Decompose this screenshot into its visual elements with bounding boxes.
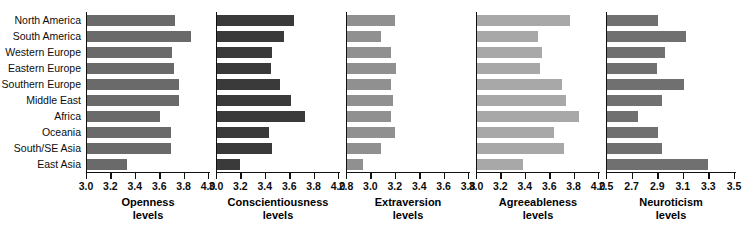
bar-conscientiousness-southern-europe [217, 79, 280, 90]
bar-row [347, 140, 470, 156]
bar-row [347, 60, 470, 76]
bar-conscientiousness-eastern-europe [217, 63, 271, 74]
panel-title-main: Conscientiousness [228, 196, 329, 208]
bar-row [87, 140, 210, 156]
axis-tick-label: 3.2 [387, 180, 402, 192]
panel-agreeableness: 3.03.23.43.63.84.0Agreeablenesslevels [476, 0, 600, 227]
bar-agreeableness-western-europe [477, 47, 542, 58]
axis-tick [500, 173, 501, 179]
axis-tick-label: 3.8 [566, 180, 581, 192]
bar-openness-east-asia [87, 159, 127, 170]
bar-row [87, 92, 210, 108]
panel-title-neuroticism: Neuroticismlevels [606, 196, 736, 222]
panel-title-main: Neuroticism [639, 196, 703, 208]
bar-agreeableness-southern-europe [477, 79, 562, 90]
bar-row [607, 156, 736, 172]
bar-neuroticism-east-asia [607, 159, 708, 170]
bar-row [87, 124, 210, 140]
category-label: South America [0, 28, 86, 44]
bar-row [607, 108, 736, 124]
x-axis-openness: 3.03.23.43.63.84.0 [86, 172, 210, 180]
plot-area-neuroticism [606, 12, 736, 172]
bar-row [607, 44, 736, 60]
axis-tick-label: 3.6 [282, 180, 297, 192]
axis-tick-label: 2.9 [650, 180, 665, 192]
bar-row [87, 108, 210, 124]
bar-extraversion-oceania [347, 127, 395, 138]
axis-tick [574, 173, 575, 179]
bar-agreeableness-africa [477, 111, 579, 122]
axis-tick [468, 173, 469, 179]
axis-tick [86, 173, 87, 179]
axis-tick-label: 3.5 [727, 180, 742, 192]
axis-tick [419, 173, 420, 179]
axis-tick [632, 173, 633, 179]
small-multiples-bar-chart: North AmericaSouth AmericaWestern Europe… [0, 0, 743, 227]
bar-extraversion-east-asia [347, 159, 363, 170]
axis-tick [240, 173, 241, 179]
panel-conscientiousness: 3.03.23.43.63.84.0Conscientiousnesslevel… [216, 0, 340, 227]
axis-tick [110, 173, 111, 179]
bar-row [217, 108, 340, 124]
axis-tick [216, 173, 217, 179]
axis-tick-label: 2.8 [339, 180, 354, 192]
plot-area-openness [86, 12, 210, 172]
bar-neuroticism-oceania [607, 127, 658, 138]
panel-title-sub: levels [606, 209, 736, 222]
category-label: Southern Europe [0, 76, 86, 92]
axis-tick [346, 173, 347, 179]
panel-openness: 3.03.23.43.63.84.0Opennesslevels [86, 0, 210, 227]
axis-tick-label: 3.1 [675, 180, 690, 192]
panel-extraversion: 2.83.03.23.43.63.8Extraversionlevels [346, 0, 470, 227]
bar-row [477, 108, 600, 124]
bar-extraversion-eastern-europe [347, 63, 396, 74]
axis-tick [683, 173, 684, 179]
category-label: Oceania [0, 124, 86, 140]
bar-extraversion-south-se-asia [347, 143, 381, 154]
bar-row [477, 12, 600, 28]
plot-area-agreeableness [476, 12, 600, 172]
panel-title-main: Agreeableness [499, 196, 577, 208]
axis-tick-label: 3.2 [233, 180, 248, 192]
bar-openness-africa [87, 111, 160, 122]
bar-row [87, 44, 210, 60]
bar-neuroticism-south-america [607, 31, 686, 42]
bar-row [347, 12, 470, 28]
plot-area-conscientiousness [216, 12, 340, 172]
panel-title-extraversion: Extraversionlevels [346, 196, 470, 222]
category-label: North America [0, 12, 86, 28]
bar-row [87, 60, 210, 76]
bar-row [347, 44, 470, 60]
bar-extraversion-south-america [347, 31, 381, 42]
bar-row [607, 60, 736, 76]
axis-tick [444, 173, 445, 179]
x-axis-extraversion: 2.83.03.23.43.63.8 [346, 172, 470, 180]
axis-tick [289, 173, 290, 179]
panel-title-main: Openness [121, 196, 174, 208]
panel-title-conscientiousness: Conscientiousnesslevels [216, 196, 340, 222]
bar-agreeableness-eastern-europe [477, 63, 540, 74]
plot-area-extraversion [346, 12, 470, 172]
bar-row [217, 12, 340, 28]
bar-neuroticism-eastern-europe [607, 63, 657, 74]
axis-tick [370, 173, 371, 179]
axis-tick-label: 3.6 [152, 180, 167, 192]
panel-title-openness: Opennesslevels [86, 196, 210, 222]
axis-tick [549, 173, 550, 179]
bar-openness-western-europe [87, 47, 172, 58]
axis-tick [135, 173, 136, 179]
bar-conscientiousness-east-asia [217, 159, 240, 170]
bar-openness-north-america [87, 15, 175, 26]
bar-row [217, 76, 340, 92]
bar-row [347, 124, 470, 140]
bar-row [477, 156, 600, 172]
bar-neuroticism-southern-europe [607, 79, 684, 90]
bar-neuroticism-western-europe [607, 47, 665, 58]
axis-tick [184, 173, 185, 179]
bar-neuroticism-africa [607, 111, 638, 122]
bar-conscientiousness-western-europe [217, 47, 272, 58]
bar-row [477, 44, 600, 60]
axis-tick-label: 3.4 [257, 180, 272, 192]
category-label: Eastern Europe [0, 60, 86, 76]
bar-row [347, 92, 470, 108]
